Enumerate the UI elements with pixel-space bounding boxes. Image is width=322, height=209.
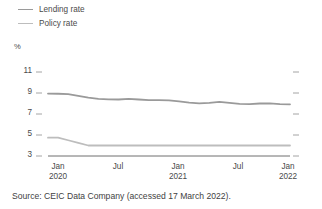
x-axis-tick-2: Jan2021 (155, 162, 201, 182)
x-axis-tick-1: Jul (95, 162, 141, 172)
legend-item-lending-rate: Lending rate (18, 4, 85, 15)
line-swatch-icon (18, 9, 33, 10)
y-axis-unit-label: % (14, 42, 21, 51)
chart-figure: Lending rate Policy rate % 357911 Jan202… (0, 0, 322, 209)
line-swatch-icon (18, 23, 33, 24)
legend-label-policy-rate: Policy rate (39, 18, 77, 29)
y-axis-tick-7: 7 (14, 108, 32, 117)
chart-legend: Lending rate Policy rate (18, 4, 85, 29)
legend-item-policy-rate: Policy rate (18, 18, 85, 29)
y-axis-tick-3: 3 (14, 150, 32, 159)
y-axis-tick-5: 5 (14, 129, 32, 138)
y-axis-tick-11: 11 (14, 66, 32, 75)
x-axis-tick-0: Jan2020 (35, 162, 81, 182)
x-axis-tick-3: Jul (215, 162, 261, 172)
x-axis-tick-4: Jan2022 (265, 162, 311, 182)
series-line-lending-rate (48, 94, 290, 105)
y-axis-tick-9: 9 (14, 87, 32, 96)
series-line-policy-rate (48, 138, 290, 146)
legend-label-lending-rate: Lending rate (39, 4, 85, 15)
source-note: Source: CEIC Data Company (accessed 17 M… (12, 191, 231, 201)
